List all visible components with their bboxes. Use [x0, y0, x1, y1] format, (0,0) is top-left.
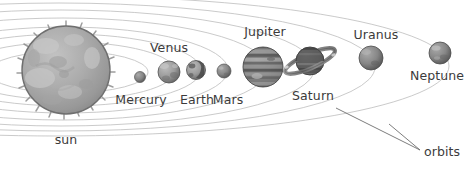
uranus-body: [359, 46, 383, 70]
label-jupiter: Jupiter: [244, 26, 285, 39]
label-earth: Earth: [180, 94, 214, 107]
planet-mercury: [135, 72, 146, 83]
label-neptune: Neptune: [410, 70, 464, 83]
label-venus: Venus: [150, 42, 188, 55]
label-mercury: Mercury: [115, 94, 166, 107]
planet-earth: [187, 60, 206, 80]
label-sun: sun: [55, 134, 78, 147]
neptune-body: [429, 42, 451, 64]
orbits-leader-lines: [336, 108, 420, 150]
mercury-body: [135, 72, 146, 83]
solar-system-diagram: sun Mercury Venus Earth Mars Jupiter Sat…: [0, 0, 473, 171]
label-uranus: Uranus: [354, 29, 399, 42]
planet-venus: [158, 61, 180, 83]
sun: [17, 21, 115, 119]
planet-neptune: [429, 42, 451, 64]
planet-jupiter: [243, 47, 283, 87]
label-mars: Mars: [213, 94, 244, 107]
mars-body: [217, 64, 231, 78]
label-saturn: Saturn: [292, 90, 334, 103]
label-orbits: orbits: [424, 146, 460, 159]
orbits-leader-1: [336, 108, 420, 150]
planet-uranus: [359, 46, 383, 70]
planet-mars: [217, 64, 231, 78]
planet-saturn: [282, 43, 337, 78]
